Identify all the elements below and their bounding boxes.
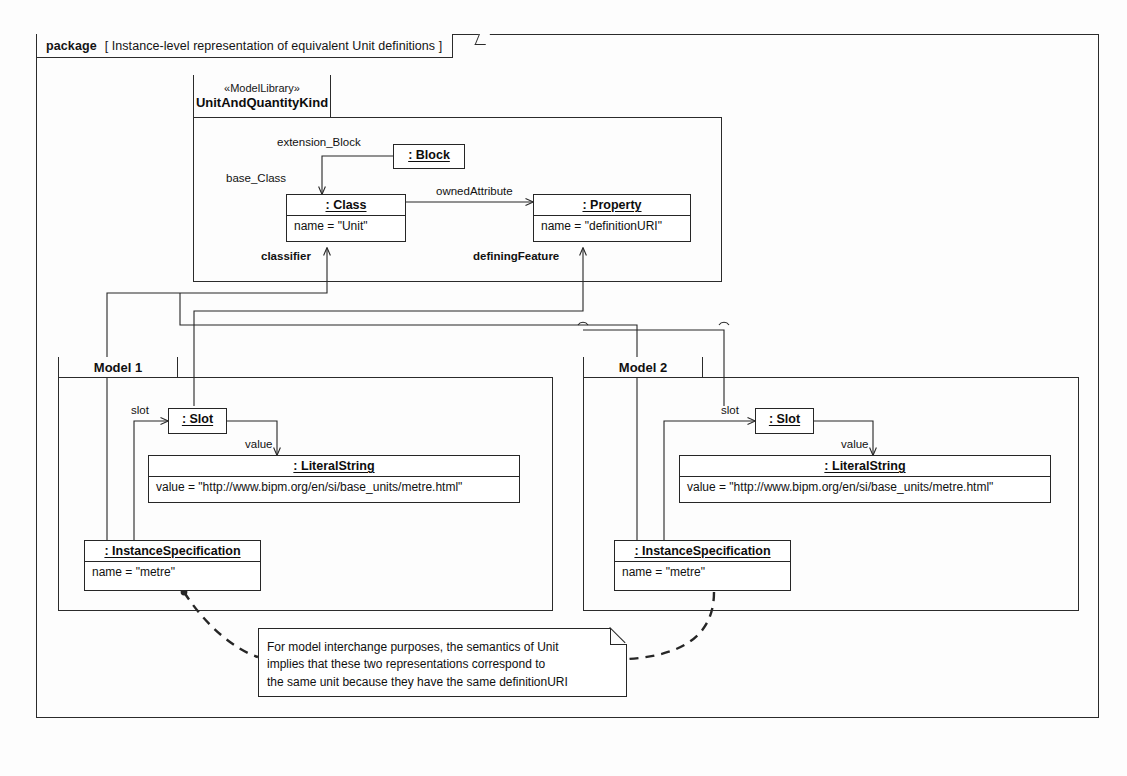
note-line-1: For model interchange purposes, the sema…: [267, 639, 619, 656]
edge-label-owned-attribute: ownedAttribute: [436, 185, 513, 197]
node-m1-instancespecification-attribute: name = "metre": [85, 562, 260, 583]
edge-label-m2-value: value: [841, 438, 869, 450]
note-comment[interactable]: For model interchange purposes, the sema…: [258, 628, 627, 697]
note-text: For model interchange purposes, the sema…: [267, 639, 619, 691]
node-property-header: : Property: [534, 195, 690, 216]
diagram-canvas: package [ Instance-level representation …: [0, 0, 1127, 776]
note-line-2: implies that these two representations c…: [267, 656, 619, 673]
package-name: [ Instance-level representation of equiv…: [105, 39, 442, 53]
edge-label-extension-block: extension_Block: [277, 136, 361, 148]
edge-label-classifier: classifier: [261, 250, 311, 262]
node-property-attribute: name = "definitionURI": [534, 216, 690, 237]
edge-label-m1-value: value: [245, 438, 273, 450]
node-class-header: : Class: [287, 195, 405, 216]
note-line-3: the same unit because they have the same…: [267, 674, 619, 691]
node-m2-slot-header: : Slot: [756, 409, 813, 429]
edge-label-m1-slot: slot: [131, 404, 149, 416]
node-m2-literalstring-header: : LiteralString: [680, 456, 1050, 477]
node-m2-instancespecification-attribute: name = "metre": [615, 562, 790, 583]
node-m2-slot[interactable]: : Slot: [755, 408, 814, 434]
node-block[interactable]: : Block: [393, 144, 465, 169]
model-2-label: Model 2: [619, 360, 667, 375]
package-frame-tab: package [ Instance-level representation …: [36, 34, 453, 58]
node-class[interactable]: : Class name = "Unit": [286, 194, 406, 242]
edge-label-defining-feature: definingFeature: [473, 250, 559, 262]
node-m1-instancespecification[interactable]: : InstanceSpecification name = "metre": [84, 540, 261, 591]
model-1-frame-tab: Model 1: [58, 357, 178, 378]
node-block-header: : Block: [394, 145, 464, 165]
node-m2-instancespecification[interactable]: : InstanceSpecification name = "metre": [614, 540, 791, 591]
node-m2-instancespecification-header: : InstanceSpecification: [615, 541, 790, 562]
edge-label-m2-slot: slot: [721, 404, 739, 416]
package-keyword: package: [46, 39, 97, 53]
model-library-frame-tab: «ModelLibrary» UnitAndQuantityKind: [193, 75, 331, 118]
model-library-name: UnitAndQuantityKind: [196, 95, 328, 110]
node-m2-literalstring[interactable]: : LiteralString value = "http://www.bipm…: [679, 455, 1051, 503]
model-2-frame-tab: Model 2: [583, 357, 703, 378]
node-m1-literalstring-attribute: value = "http://www.bipm.org/en/si/base_…: [149, 477, 519, 498]
node-m1-literalstring-header: : LiteralString: [149, 456, 519, 477]
node-m1-slot[interactable]: : Slot: [168, 408, 227, 434]
node-class-attribute: name = "Unit": [287, 216, 405, 237]
model-library-stereotype: «ModelLibrary»: [224, 82, 300, 95]
node-property[interactable]: : Property name = "definitionURI": [533, 194, 691, 242]
edge-label-base-class: base_Class: [226, 172, 286, 184]
node-m1-literalstring[interactable]: : LiteralString value = "http://www.bipm…: [148, 455, 520, 503]
node-m1-slot-header: : Slot: [169, 409, 226, 429]
model-1-label: Model 1: [94, 360, 142, 375]
node-m1-instancespecification-header: : InstanceSpecification: [85, 541, 260, 562]
node-m2-literalstring-attribute: value = "http://www.bipm.org/en/si/base_…: [680, 477, 1050, 498]
